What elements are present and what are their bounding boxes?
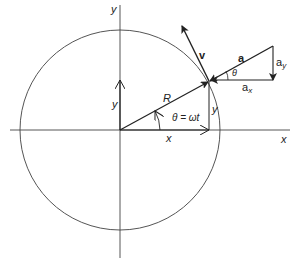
velocity-label: v [199,50,205,61]
x-component-label: x [166,133,172,144]
small-angle-arc [226,71,228,80]
angle-label: θ = ωt [172,113,199,123]
radius-label: R [163,93,171,104]
acceleration-label: a [238,53,244,64]
circular-motion-diagram [0,0,295,262]
small-theta-label: θ [232,69,237,78]
y-component-label: y [112,99,118,110]
y-axis-label: y [111,4,117,15]
acceleration-x-sub: x [248,86,252,95]
acceleration-x-label: ax [242,82,252,95]
x-axis-label: x [281,134,287,145]
acceleration-y-sub: y [282,61,286,70]
acceleration-y-label: ay [276,57,286,70]
angle-arc [155,111,160,130]
y-projection-label: y [212,104,218,115]
